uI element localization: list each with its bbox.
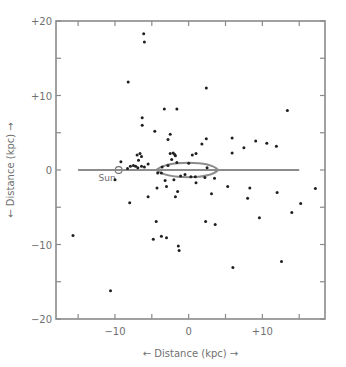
cluster-point (177, 245, 180, 248)
cluster-point (129, 165, 132, 168)
cluster-point (175, 161, 178, 164)
cluster-point (72, 234, 75, 237)
sun-label: Sun (99, 173, 116, 183)
cluster-point (156, 186, 159, 189)
cluster-point (163, 107, 166, 110)
cluster-point (214, 223, 217, 226)
cluster-point (205, 87, 208, 90)
axis-labels: −100+10+20+100−10−20← Distance (kpc) →← … (5, 16, 273, 359)
cluster-point (200, 142, 203, 145)
cluster-point (164, 179, 167, 182)
x-tick-label: 0 (185, 326, 191, 337)
cluster-point (165, 185, 168, 188)
cluster-point (231, 137, 234, 140)
cluster-point (203, 176, 206, 179)
cluster-point (169, 133, 172, 136)
cluster-point (147, 195, 150, 198)
scatter-plot: Sun −100+10+20+100−10−20← Distance (kpc)… (0, 0, 346, 367)
cluster-point (290, 211, 293, 214)
cluster-point (213, 177, 216, 180)
y-tick-label: +10 (31, 91, 52, 102)
cluster-point (178, 249, 181, 252)
cluster-point (314, 187, 317, 190)
cluster-point (204, 220, 207, 223)
cluster-point (143, 166, 146, 169)
cluster-point (156, 172, 159, 175)
y-tick-label: +20 (31, 16, 52, 27)
cluster-point (141, 116, 144, 119)
cluster-point (176, 190, 179, 193)
cluster-point (161, 166, 164, 169)
galactic-disk: Sun (78, 163, 299, 183)
cluster-point (246, 197, 249, 200)
cluster-point (127, 81, 130, 84)
cluster-point (126, 167, 129, 170)
cluster-point (231, 151, 234, 154)
cluster-point (187, 162, 190, 165)
x-axis-label: ← Distance (kpc) → (143, 348, 238, 359)
cluster-point (160, 235, 163, 238)
cluster-point (206, 166, 209, 169)
cluster-point (136, 154, 139, 157)
cluster-point (142, 32, 145, 35)
cluster-point (147, 163, 150, 166)
cluster-point (169, 152, 172, 155)
cluster-point (248, 186, 251, 189)
cluster-point (195, 181, 198, 184)
cluster-point (119, 160, 122, 163)
globular-cluster-distribution-chart: Sun −100+10+20+100−10−20← Distance (kpc)… (0, 0, 346, 367)
cluster-point (231, 266, 234, 269)
cluster-point (210, 192, 213, 195)
cluster-point (140, 165, 143, 168)
cluster-point (167, 138, 170, 141)
cluster-point (189, 175, 192, 178)
cluster-point (128, 201, 131, 204)
cluster-point (265, 142, 268, 145)
cluster-point (299, 202, 302, 205)
y-tick-label: −20 (31, 314, 52, 325)
cluster-point (170, 158, 173, 161)
cluster-point (160, 172, 163, 175)
cluster-point (114, 178, 117, 181)
cluster-point (174, 195, 177, 198)
cluster-point (276, 191, 279, 194)
cluster-point (275, 145, 278, 148)
y-tick-label: −10 (31, 240, 52, 251)
cluster-point (153, 130, 156, 133)
cluster-point (137, 159, 140, 162)
cluster-point (155, 220, 158, 223)
cluster-point (194, 175, 197, 178)
cluster-point (280, 260, 283, 263)
cluster-point (179, 175, 182, 178)
cluster-point (184, 173, 187, 176)
cluster-point (136, 166, 139, 169)
cluster-point (172, 178, 175, 181)
cluster-point (139, 152, 142, 155)
y-axis-label: ← Distance (kpc) → (5, 122, 16, 217)
cluster-point (143, 40, 146, 43)
cluster-point (152, 238, 155, 241)
y-tick-label: 0 (46, 165, 52, 176)
cluster-point (254, 139, 257, 142)
cluster-point (195, 152, 198, 155)
cluster-point (205, 137, 208, 140)
cluster-point (167, 164, 170, 167)
cluster-point (173, 153, 176, 156)
cluster-point (165, 236, 168, 239)
cluster-point (175, 107, 178, 110)
cluster-point (140, 155, 143, 158)
cluster-point (226, 185, 229, 188)
cluster-point (258, 216, 261, 219)
cluster-point (141, 124, 144, 127)
x-tick-label: +10 (252, 326, 273, 337)
cluster-point (109, 289, 112, 292)
x-tick-label: −10 (104, 326, 125, 337)
cluster-point (242, 146, 245, 149)
cluster-point (191, 154, 194, 157)
cluster-point (286, 109, 289, 112)
